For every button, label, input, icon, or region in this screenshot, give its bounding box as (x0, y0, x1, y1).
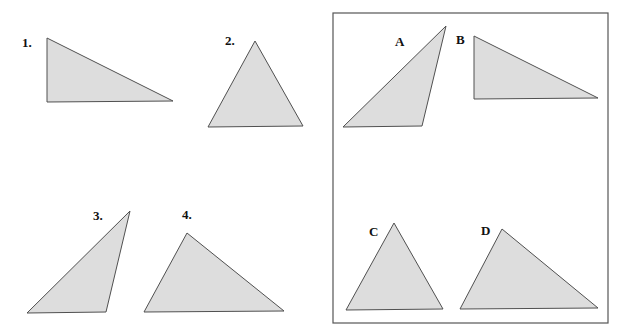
triangle-label: 1. (22, 35, 32, 50)
triangle-label: 2. (225, 33, 235, 48)
lettered-triangle-a: A (343, 26, 446, 127)
numbered-triangle-2: 2. (208, 33, 303, 127)
lettered-triangle-b: B (456, 32, 598, 99)
triangle-label: D (481, 223, 490, 238)
lettered-triangle-d: D (460, 223, 598, 309)
triangle-label: B (456, 32, 465, 47)
numbered-triangle-4: 4. (144, 207, 284, 312)
triangle-matching-diagram: 1. 2. 3. 4. A B C D (0, 0, 624, 327)
triangle-label: A (395, 34, 405, 49)
numbered-triangle-3: 3. (27, 208, 130, 313)
triangle-label: 4. (182, 207, 192, 222)
triangle-shape (474, 36, 598, 99)
triangle-shape (144, 233, 284, 312)
triangle-label: 3. (93, 208, 103, 223)
triangle-label: C (369, 224, 378, 239)
triangle-shape (47, 38, 173, 102)
triangle-shape (208, 41, 303, 127)
triangle-shape (460, 229, 598, 309)
triangle-shape (27, 211, 130, 313)
triangle-shape (346, 223, 443, 310)
lettered-triangle-c: C (346, 223, 443, 310)
numbered-triangle-1: 1. (22, 35, 173, 102)
